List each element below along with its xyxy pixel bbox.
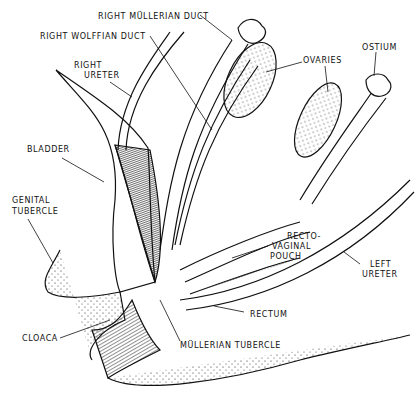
label-right-ureter-line2: URETER <box>84 71 120 81</box>
label-left-ureter-line1: LEFT <box>370 260 391 270</box>
label-right-mullerian-duct: RIGHT MÜLLERIAN DUCT <box>98 12 209 22</box>
label-cloaca: CLOACA <box>22 334 58 344</box>
label-ovaries: OVARIES <box>303 56 342 66</box>
label-right-ureter-line1: RIGHT <box>74 61 102 71</box>
label-ostium: OSTIUM <box>362 43 397 53</box>
diagram-drawing <box>0 0 417 398</box>
anatomy-diagram: RIGHT MÜLLERIAN DUCT RIGHT WOLFFIAN DUCT… <box>0 0 417 398</box>
label-mullerian-tubercle: MÜLLERIAN TUBERCLE <box>180 341 281 351</box>
label-bladder: BLADDER <box>27 145 70 155</box>
label-genital-tubercle-line1: GENITAL <box>12 196 50 206</box>
label-recto-vaginal-pouch-line3: POUCH <box>270 252 302 262</box>
label-recto-vaginal-pouch-line2: VAGINAL <box>272 242 311 252</box>
label-left-ureter-line2: URETER <box>362 270 398 280</box>
label-genital-tubercle-line2: TUBERCLE <box>12 207 58 217</box>
label-rectum: RECTUM <box>250 310 287 320</box>
label-recto-vaginal-pouch-line1: RECTO- <box>287 232 321 242</box>
bladder-shape <box>56 70 160 292</box>
label-right-wolffian-duct: RIGHT WOLFFIAN DUCT <box>40 32 146 42</box>
